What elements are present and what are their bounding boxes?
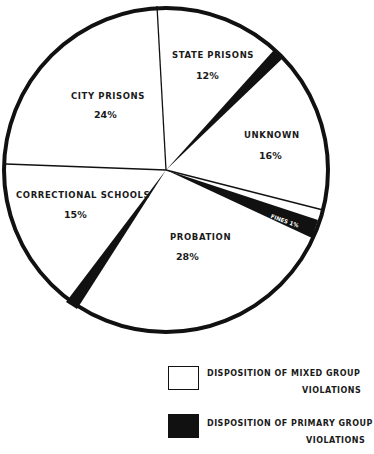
pct-probation: 28% (176, 251, 199, 262)
legend-mixed-line1: DISPOSITION OF MIXED GROUP (207, 369, 360, 378)
label-state-prisons: STATE PRISONS (172, 50, 254, 60)
legend-primary-line1: DISPOSITION OF PRIMARY GROUP (207, 419, 373, 428)
legend-swatch-mixed (168, 366, 199, 390)
pct-correctional-schools: 15% (64, 209, 87, 220)
label-unknown: UNKNOWN (244, 130, 300, 140)
pct-state-prisons: 12% (196, 70, 219, 81)
label-city-prisons: CITY PRISONS (71, 91, 145, 101)
pct-unknown: 16% (259, 150, 282, 161)
pct-city-prisons: 24% (94, 109, 117, 120)
legend-mixed-line2: VIOLATIONS (302, 386, 361, 395)
label-probation: PROBATION (170, 232, 231, 242)
legend-primary-line2: VIOLATIONS (306, 436, 365, 445)
label-correctional-schools: CORRECTIONAL SCHOOLS (16, 190, 150, 200)
legend-swatch-primary (168, 414, 199, 438)
